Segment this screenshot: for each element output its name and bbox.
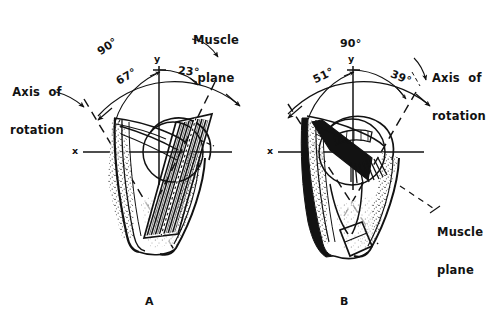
panel-b-arc90-arrow-right bbox=[416, 94, 430, 106]
panel-b-axis-of-rotation-callout: Axis of rotation bbox=[432, 46, 496, 149]
panel-a-angle-23-label: 23° bbox=[178, 65, 200, 79]
panel-b-axis-of-rotation-line1: Axis of bbox=[432, 72, 496, 85]
panel-b-angle-90-label: 90° bbox=[340, 38, 361, 50]
figure-container: Axis of rotation Muscle plane 90° 67° 23… bbox=[0, 0, 499, 323]
panel-a-y-axis-label: y bbox=[154, 54, 160, 65]
panel-b-muscle-plane-callout: Muscle plane bbox=[437, 200, 497, 303]
figure-drawing bbox=[0, 0, 499, 323]
panel-b-muscle-callout-leader bbox=[400, 186, 436, 210]
panel-a-axis-of-rotation-line1: Axis of bbox=[4, 86, 70, 99]
panel-a-muscle-plane-callout: Muscle plane bbox=[185, 8, 247, 111]
panel-a-axis-of-rotation-callout: Axis of rotation bbox=[4, 60, 70, 163]
panel-a-x-axis-label: x bbox=[72, 146, 78, 157]
panel-b-muscle-plane-line1: Muscle bbox=[437, 226, 497, 239]
panel-b-label: B bbox=[340, 296, 349, 308]
panel-b-muscle-plane-line2: plane bbox=[437, 264, 497, 277]
panel-b-y-axis-label: y bbox=[348, 54, 354, 65]
panel-b-x-axis-label: x bbox=[267, 146, 273, 157]
panel-a-axis-of-rotation-line2: rotation bbox=[4, 124, 70, 137]
panel-b-drawing bbox=[278, 58, 440, 259]
panel-a-muscle-plane-line1: Muscle bbox=[185, 34, 247, 47]
panel-b-axis-callout-tick bbox=[412, 72, 420, 86]
panel-b-axis-callout-leader bbox=[414, 58, 426, 80]
panel-b-axis-of-rotation-line2: rotation bbox=[432, 110, 496, 123]
panel-a-label: A bbox=[145, 296, 154, 308]
